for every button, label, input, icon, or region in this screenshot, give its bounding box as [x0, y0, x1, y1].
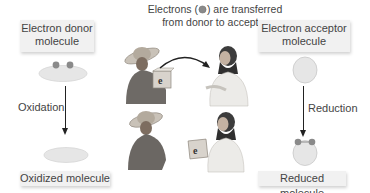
reduced-molecule — [290, 133, 320, 167]
electron-acceptor-label: Electron acceptor molecule — [258, 20, 350, 52]
acceptor-molecule — [290, 55, 320, 85]
electron-donor-label: Electron donor molecule — [20, 20, 94, 52]
oxidation-arrow — [65, 86, 67, 129]
svg-text:e: e — [193, 145, 198, 156]
electron-dot-icon — [295, 139, 302, 146]
oxidized-molecule-label: Oxidized molecule — [20, 171, 110, 186]
reduction-label: Reduction — [308, 102, 358, 114]
electron-dot-icon — [309, 139, 316, 146]
svg-text:e: e — [158, 75, 163, 86]
caption-line-1: Electrons () are transferred — [135, 3, 295, 16]
oxidation-label: Oxidation — [18, 101, 64, 113]
illustration-acceptor-person-top — [206, 44, 250, 106]
electron-dot-icon — [67, 62, 74, 69]
electron-dot-icon — [198, 5, 207, 14]
donor-molecule — [38, 58, 88, 82]
oxidized-molecule — [42, 146, 90, 164]
electron-dot-icon — [53, 62, 60, 69]
transfer-arrow — [158, 52, 213, 74]
illustration-donor-person-bottom — [124, 110, 172, 170]
electron-box-bottom: e — [188, 136, 210, 160]
reduction-arrow — [303, 86, 305, 131]
reduced-molecule-label: Reduced molecule — [258, 171, 346, 186]
oxidation-arrow-head — [62, 128, 68, 135]
